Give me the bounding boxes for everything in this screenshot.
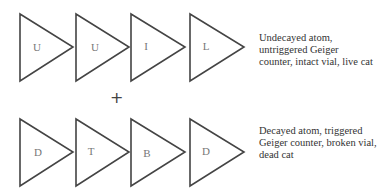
triangle-4	[190, 14, 244, 81]
triangle-label: U	[91, 41, 99, 53]
triangle-1	[20, 119, 73, 186]
row-decayed: D T B D	[20, 119, 244, 186]
triangle-2	[76, 14, 129, 81]
triangle-label: U	[33, 41, 41, 53]
row-undecayed: U U I L	[20, 14, 244, 81]
triangle-2	[76, 119, 129, 186]
row-description-undecayed: Undecayed atom, untriggered Geiger count…	[259, 32, 374, 68]
triangle-3	[131, 119, 185, 186]
plus-operator: +	[110, 88, 123, 107]
triangle-3	[131, 14, 185, 81]
triangle-label: T	[88, 145, 95, 157]
triangle-4	[190, 119, 244, 186]
triangle-1	[20, 14, 73, 81]
row-description-decayed: Decayed atom, triggered Geiger counter, …	[259, 125, 377, 161]
triangle-label: D	[202, 145, 210, 157]
triangle-label: L	[203, 40, 210, 52]
triangle-label: I	[144, 40, 148, 52]
triangle-label: B	[143, 147, 150, 159]
triangle-label: D	[34, 146, 42, 158]
